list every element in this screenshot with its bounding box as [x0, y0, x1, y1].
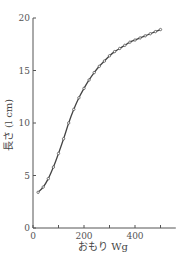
- data-point-marker: [129, 41, 131, 43]
- y-axis-label: 長さ (l cm): [3, 99, 14, 152]
- x-tick-label: 0: [30, 231, 36, 241]
- data-point-marker: [62, 138, 64, 140]
- data-point-marker: [103, 60, 105, 62]
- data-point-marker: [113, 50, 115, 52]
- axes: 020040005101520: [19, 13, 176, 241]
- data-point-marker: [83, 87, 85, 89]
- y-tick-label: 15: [19, 66, 31, 76]
- y-tick-label: 0: [24, 223, 30, 233]
- data-point-marker: [149, 33, 151, 35]
- data-point-marker: [42, 186, 44, 188]
- plot-area: [37, 28, 162, 193]
- data-point-marker: [37, 191, 39, 193]
- data-point-marker: [119, 47, 121, 49]
- data-point-marker: [159, 28, 161, 30]
- x-tick-label: 400: [126, 231, 143, 241]
- data-point-marker: [139, 37, 141, 39]
- x-tick-label: 200: [75, 231, 92, 241]
- data-point-marker: [73, 108, 75, 110]
- data-point-marker: [154, 30, 156, 32]
- data-point-marker: [47, 177, 49, 179]
- data-point-marker: [88, 79, 90, 81]
- x-axis-label: おもり Wg: [78, 241, 128, 252]
- line-chart: 020040005101520 おもり Wg 長さ (l cm): [0, 0, 185, 260]
- data-point-marker: [108, 55, 110, 57]
- data-point-marker: [144, 35, 146, 37]
- data-point-marker: [98, 65, 100, 67]
- data-point-marker: [57, 152, 59, 154]
- data-point-marker: [52, 166, 54, 168]
- data-point-marker: [134, 39, 136, 41]
- y-tick-label: 10: [19, 118, 31, 128]
- y-tick-label: 5: [24, 171, 30, 181]
- data-point-marker: [68, 122, 70, 124]
- y-tick-label: 20: [19, 13, 31, 23]
- data-point-marker: [93, 71, 95, 73]
- data-point-marker: [78, 97, 80, 99]
- data-point-marker: [124, 44, 126, 46]
- series-line: [38, 30, 160, 193]
